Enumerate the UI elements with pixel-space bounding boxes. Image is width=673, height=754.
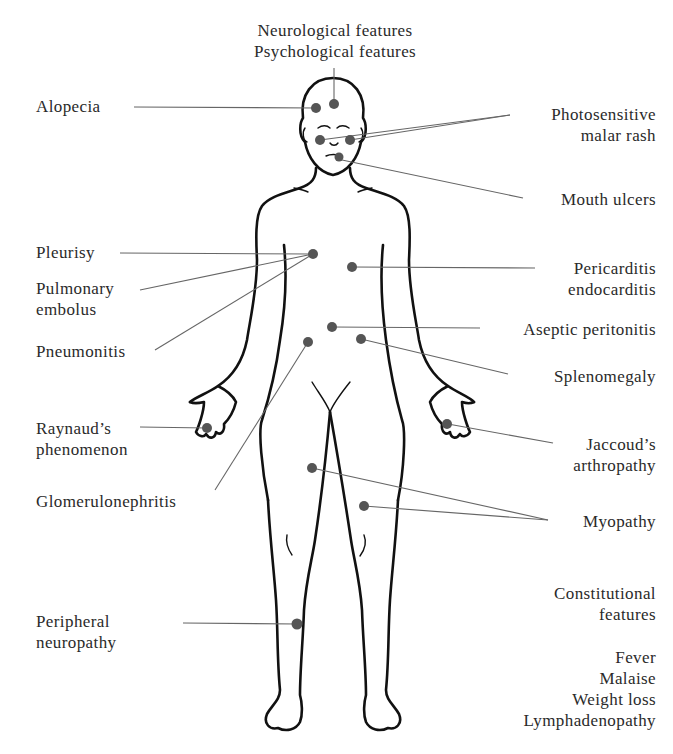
dot-calf xyxy=(292,619,303,630)
label-peripheral-neuropathy: Peripheral neuropathy xyxy=(36,611,116,653)
dot-malar-right xyxy=(345,135,355,145)
dot-left-hand xyxy=(202,423,212,433)
label-alopecia: Alopecia xyxy=(36,96,101,117)
label-neuro-psych: Neurological features Psychological feat… xyxy=(230,20,440,62)
label-constitutional-features: Constitutional features xyxy=(554,583,656,625)
head-outline xyxy=(300,78,366,175)
dot-lung xyxy=(308,249,318,259)
dot-kidney xyxy=(303,337,313,347)
label-mouth-ulcers: Mouth ulcers xyxy=(561,189,656,210)
dot-spleen xyxy=(356,334,366,344)
label-pleurisy: Pleurisy xyxy=(36,242,95,263)
label-jaccouds: Jaccoud’s arthropathy xyxy=(573,434,656,476)
label-raynauds: Raynaud’s phenomenon xyxy=(36,418,128,460)
dot-thigh xyxy=(307,463,317,473)
sle-body-diagram: Neurological features Psychological feat… xyxy=(0,0,673,754)
label-pericarditis: Pericarditis endocarditis xyxy=(568,258,656,300)
constitutional-features-list: Fever Malaise Weight loss Lymphadenopath… xyxy=(523,647,656,731)
label-pneumonitis: Pneumonitis xyxy=(36,341,125,362)
dot-peritoneum xyxy=(327,322,337,332)
dot-heart xyxy=(347,262,357,272)
left-leg-outline xyxy=(266,412,330,730)
label-aseptic-peritonitis: Aseptic peritonitis xyxy=(523,319,656,340)
dot-right-hand xyxy=(442,419,452,429)
constitutional-item: Weight loss xyxy=(523,689,656,710)
torso-left-outline xyxy=(190,168,316,402)
leader-lines xyxy=(120,68,553,624)
label-myopathy: Myopathy xyxy=(583,511,656,532)
constitutional-item: Fever xyxy=(523,647,656,668)
label-pulmonary-embolus: Pulmonary embolus xyxy=(36,278,114,320)
dot-right-thigh xyxy=(359,501,369,511)
torso-right-outline xyxy=(350,168,474,402)
constitutional-item: Lymphadenopathy xyxy=(523,710,656,731)
right-hand-outline xyxy=(430,386,474,438)
dot-neuro xyxy=(329,99,339,109)
dot-malar-left xyxy=(315,135,325,145)
dot-mouth xyxy=(335,153,344,162)
constitutional-item: Malaise xyxy=(523,668,656,689)
label-glomerulonephritis: Glomerulonephritis xyxy=(36,491,176,512)
dot-alopecia xyxy=(311,103,321,113)
right-leg-outline xyxy=(330,412,400,730)
label-splenomegaly: Splenomegaly xyxy=(554,366,656,387)
label-malar-rash: Photosensitive malar rash xyxy=(551,104,656,146)
left-hand-outline xyxy=(190,386,236,438)
